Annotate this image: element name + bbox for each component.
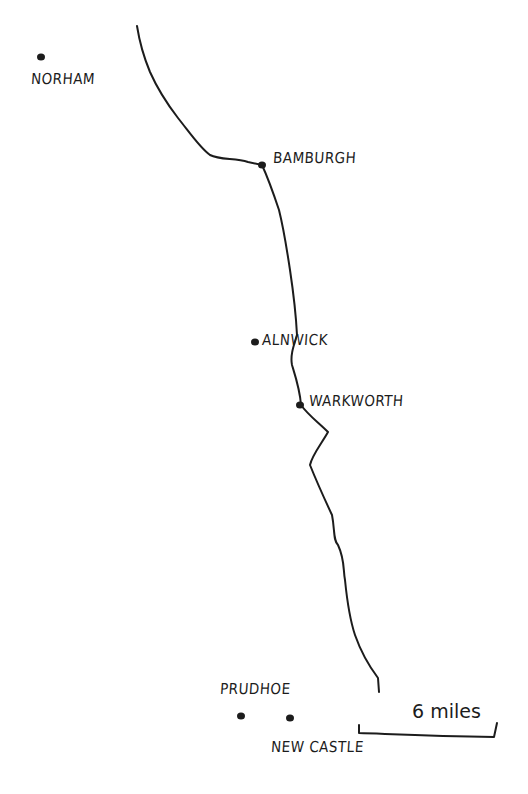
place-dot-prudhoe [237, 712, 245, 719]
place-dot-warkworth [296, 401, 304, 408]
place-dot-alnwick [251, 338, 259, 345]
place-markers [37, 53, 304, 721]
place-dot-bamburgh [258, 161, 266, 168]
place-label-bamburgh: BAMBURGH [272, 149, 357, 167]
place-label-warkworth: WARKWORTH [308, 392, 404, 410]
place-label-norham: NORHAM [30, 70, 95, 88]
place-dot-new-castle [286, 714, 294, 721]
scale-bar-label: 6 miles [412, 700, 481, 722]
place-label-new-castle: NEW CASTLE [270, 738, 364, 756]
coastline [137, 26, 379, 692]
place-label-alnwick: ALNWICK [261, 331, 328, 349]
scale-bar [359, 723, 497, 737]
place-dot-norham [37, 53, 45, 60]
map-canvas [0, 0, 528, 794]
place-label-prudhoe: PRUDHOE [219, 680, 291, 698]
